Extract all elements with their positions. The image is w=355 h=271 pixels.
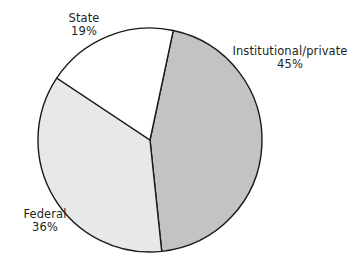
pie-label-state: State 19% bbox=[34, 12, 134, 38]
pie-label-institutional-value: 45% bbox=[228, 58, 352, 71]
pie-label-federal: Federal 36% bbox=[2, 208, 88, 234]
pie-chart-figure: State 19% Institutional/private 45% Fede… bbox=[0, 0, 355, 271]
pie-label-federal-name: Federal bbox=[2, 208, 88, 221]
pie-label-state-value: 19% bbox=[34, 25, 134, 38]
pie-label-federal-value: 36% bbox=[2, 221, 88, 234]
pie-label-institutional: Institutional/private 45% bbox=[228, 45, 352, 71]
pie-label-state-name: State bbox=[34, 12, 134, 25]
pie-label-institutional-name: Institutional/private bbox=[228, 45, 352, 58]
